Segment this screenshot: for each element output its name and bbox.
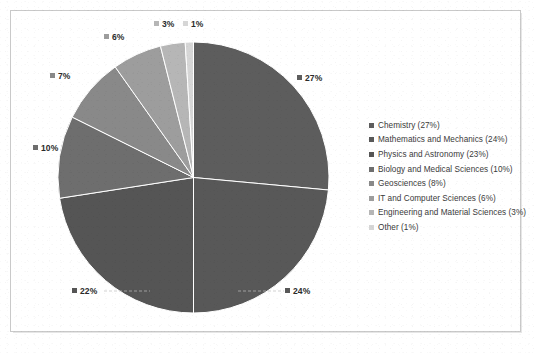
pie-data-label: 6% bbox=[104, 32, 125, 42]
legend-item-label: Geosciences (8%) bbox=[378, 179, 446, 188]
legend-item[interactable]: Geosciences (8%) bbox=[369, 176, 521, 191]
legend-item[interactable]: Other (1%) bbox=[369, 220, 521, 235]
legend-marker-icon bbox=[369, 137, 374, 142]
legend-item-label: IT and Computer Sciences (6%) bbox=[378, 194, 496, 203]
pie-data-label: 3% bbox=[154, 19, 175, 29]
legend-item[interactable]: Physics and Astronomy (23%) bbox=[369, 147, 521, 162]
data-label-marker-icon bbox=[72, 288, 77, 293]
data-label-marker-icon bbox=[154, 21, 159, 26]
legend-marker-icon bbox=[369, 225, 374, 230]
pie-slice-group[interactable] bbox=[58, 42, 329, 313]
legend-marker-icon bbox=[369, 196, 374, 201]
pie-data-label: 24% bbox=[285, 286, 310, 296]
pie-slice[interactable] bbox=[194, 42, 329, 190]
data-label-text: 6% bbox=[112, 32, 125, 42]
chart-figure: 27%24%22%10%7%6%3%1% Chemistry (27%)Math… bbox=[0, 0, 535, 357]
legend-item[interactable]: Engineering and Material Sciences (3%) bbox=[369, 206, 521, 221]
data-label-text: 1% bbox=[191, 19, 204, 29]
pie-data-label: 10% bbox=[33, 143, 58, 153]
legend-item[interactable]: Mathematics and Mechanics (24%) bbox=[369, 133, 521, 148]
legend-marker-icon bbox=[369, 181, 374, 186]
data-label-marker-icon bbox=[183, 21, 188, 26]
pie-chart-plot-area[interactable]: 27%24%22%10%7%6%3%1% Chemistry (27%)Math… bbox=[0, 0, 535, 357]
legend-item-label: Mathematics and Mechanics (24%) bbox=[378, 135, 507, 144]
legend-item[interactable]: Chemistry (27%) bbox=[369, 118, 521, 133]
data-label-text: 10% bbox=[41, 143, 58, 153]
data-label-marker-icon bbox=[285, 288, 290, 293]
data-label-text: 22% bbox=[80, 286, 97, 296]
data-label-marker-icon bbox=[297, 75, 302, 80]
legend-item-label: Chemistry (27%) bbox=[378, 121, 440, 130]
data-label-text: 7% bbox=[58, 71, 71, 81]
data-label-marker-icon bbox=[33, 145, 38, 150]
legend-marker-icon bbox=[369, 167, 374, 172]
data-label-marker-icon bbox=[50, 73, 55, 78]
legend-item-label: Other (1%) bbox=[378, 223, 419, 232]
legend-item-label: Biology and Medical Sciences (10%) bbox=[378, 165, 513, 174]
pie-data-label: 1% bbox=[183, 19, 204, 29]
pie-data-label: 27% bbox=[297, 73, 322, 83]
data-label-marker-icon bbox=[104, 34, 109, 39]
pie-data-label: 22% bbox=[72, 286, 97, 296]
legend-marker-icon bbox=[369, 123, 374, 128]
legend-item[interactable]: IT and Computer Sciences (6%) bbox=[369, 191, 521, 206]
legend-item-label: Physics and Astronomy (23%) bbox=[378, 150, 489, 159]
legend-marker-icon bbox=[369, 210, 374, 215]
chart-legend[interactable]: Chemistry (27%)Mathematics and Mechanics… bbox=[369, 118, 521, 235]
legend-item[interactable]: Biology and Medical Sciences (10%) bbox=[369, 162, 521, 177]
pie-data-label: 7% bbox=[50, 71, 71, 81]
data-label-text: 24% bbox=[293, 286, 310, 296]
legend-marker-icon bbox=[369, 152, 374, 157]
data-label-text: 3% bbox=[162, 19, 175, 29]
data-label-text: 27% bbox=[305, 73, 322, 83]
legend-item-label: Engineering and Material Sciences (3%) bbox=[378, 208, 526, 217]
